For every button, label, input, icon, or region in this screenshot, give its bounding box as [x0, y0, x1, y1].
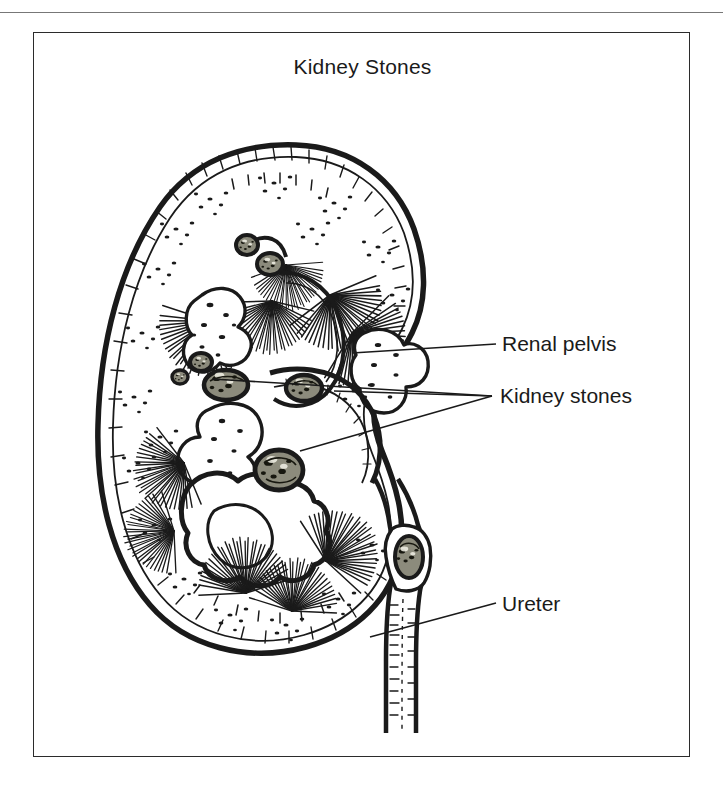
stone-mid-large [204, 370, 248, 400]
stone-pelvis-right [286, 375, 322, 401]
ureter-lumen-line [402, 599, 403, 733]
page-title: Kidney Stones [34, 55, 691, 79]
stone-lower-calyx [255, 450, 303, 490]
page-top-rule [0, 12, 723, 13]
label-kidney-stones: Kidney stones [500, 384, 632, 407]
figure-root: Kidney Stones [0, 0, 723, 792]
stone-mid-tiny [172, 370, 188, 384]
stone-ureteric [395, 536, 423, 578]
figure-frame: Kidney Stones [33, 32, 690, 757]
stone-upper-calyx-2 [257, 253, 283, 275]
kidney-organ [98, 145, 431, 733]
stone-mid-small [190, 353, 212, 371]
stone-upper-calyx-1 [236, 235, 258, 255]
label-ureter: Ureter [502, 592, 560, 615]
kidney-illustration: Renal pelvis Kidney stones Ureter [34, 33, 689, 756]
label-renal-pelvis: Renal pelvis [502, 332, 616, 355]
